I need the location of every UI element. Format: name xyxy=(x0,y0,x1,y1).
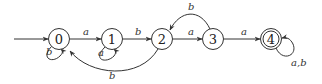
edge-label-1-1: a xyxy=(98,47,104,58)
svg-text:1: 1 xyxy=(108,32,116,47)
svg-text:2: 2 xyxy=(158,32,166,47)
state-2: 2 xyxy=(152,29,173,50)
edge-label-3-2: b xyxy=(188,1,194,12)
edge-label-0-1: a xyxy=(83,26,89,37)
edge-label-2-0: b xyxy=(109,70,115,81)
svg-text:3: 3 xyxy=(209,32,217,47)
edge-label-0-0: b xyxy=(46,46,52,57)
svg-text:0: 0 xyxy=(55,32,63,47)
edge-label-4-4: a,b xyxy=(291,57,307,68)
edge-label-2-3: a xyxy=(188,26,194,37)
svg-text:4: 4 xyxy=(267,32,275,47)
edge-label-1-2: b xyxy=(135,26,141,37)
state-1: 1 xyxy=(102,29,123,50)
automaton-diagram: b a a b b a b a a,b 0 1 2 3 4 xyxy=(0,0,322,84)
state-4-accepting: 4 xyxy=(261,29,282,50)
state-3: 3 xyxy=(203,29,224,50)
edge-label-3-4: a xyxy=(241,26,247,37)
edge-2-0 xyxy=(70,49,158,71)
state-0: 0 xyxy=(49,29,70,50)
